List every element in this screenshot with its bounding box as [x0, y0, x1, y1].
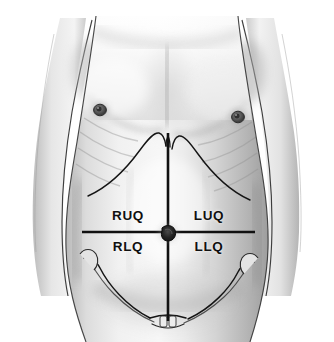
quadrant-label-luq: LUQ — [194, 208, 224, 223]
abdominal-quadrants-figure: RUQ LUQ RLQ LLQ — [0, 0, 334, 342]
quadrant-label-ruq: RUQ — [112, 208, 144, 223]
left-nipple-icon — [230, 110, 247, 125]
umbilicus-landmark — [159, 225, 177, 241]
right-nipple-icon — [92, 103, 109, 118]
quadrant-label-llq: LLQ — [195, 239, 224, 254]
quadrant-label-rlq: RLQ — [113, 239, 143, 254]
torso-illustration — [0, 0, 334, 342]
